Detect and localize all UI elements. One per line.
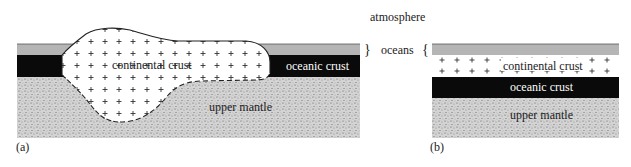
panel-a: continental crust oceanic crust upper ma… — [16, 28, 360, 154]
label-atmosphere: atmosphere — [370, 10, 425, 24]
earth-layers-diagram: continental crust oceanic crust upper ma… — [0, 0, 631, 167]
ocean-layer-b — [432, 44, 619, 55]
label-continental-crust-a: continental crust — [112, 58, 192, 72]
upper-mantle-a — [17, 77, 360, 138]
label-upper-mantle-b: upper mantle — [510, 108, 573, 122]
label-oceans: oceans — [381, 43, 414, 57]
label-oceanic-crust-b: oceanic crust — [510, 80, 574, 94]
panel-b-tag: (b) — [430, 140, 444, 154]
brace-right: { — [422, 42, 429, 57]
panel-b: continental crust oceanic crust upper ma… — [430, 44, 619, 154]
label-oceanic-crust-a: oceanic crust — [286, 59, 350, 73]
label-continental-crust-b: continental crust — [503, 59, 583, 73]
panel-a-tag: (a) — [16, 140, 29, 154]
brace-left: } — [364, 42, 371, 57]
label-upper-mantle-a: upper mantle — [209, 100, 272, 114]
